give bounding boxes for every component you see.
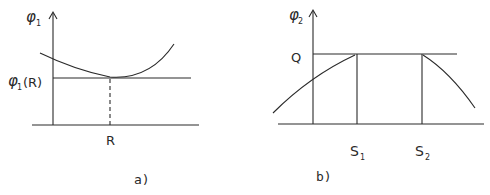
panel-b-y-axis-sub: 2 <box>298 17 303 26</box>
panel-b-labels: φ 2 Q S 1 S 2 b) <box>289 6 430 184</box>
panel-a <box>32 12 199 125</box>
panel-a-level-arg: (R) <box>23 75 42 90</box>
diagram-canvas: φ 1 φ 1 (R) R a) φ 2 Q S 1 S 2 b) <box>0 0 490 195</box>
panel-a-curve <box>40 44 174 77</box>
panel-b-s1-label: S <box>350 143 359 159</box>
panel-a-y-axis-sub: 1 <box>36 19 41 28</box>
panel-b-right-curve <box>423 55 475 108</box>
panel-b-s2-label: S <box>415 143 424 159</box>
panel-b-s1-sub: 1 <box>360 153 365 162</box>
panel-a-caption: a) <box>134 172 150 187</box>
panel-b-caption: b) <box>316 169 332 184</box>
panel-b-q-label: Q <box>291 50 301 65</box>
panel-a-level-sub: 1 <box>17 83 22 92</box>
panel-a-y-axis-label: φ <box>26 8 36 26</box>
panel-b-s2-sub: 2 <box>425 153 430 162</box>
panel-b <box>273 10 484 124</box>
panel-a-labels: φ 1 φ 1 (R) R a) <box>8 8 150 187</box>
panel-a-x-point-label: R <box>106 133 115 148</box>
panel-b-left-curve <box>273 55 355 113</box>
